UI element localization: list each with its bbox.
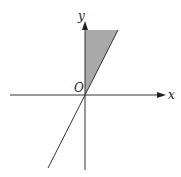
y-axis-label: y [77,9,85,23]
slanted-line [48,30,118,168]
x-axis-label: x [168,88,175,102]
coordinate-diagram: y O x [0,0,181,177]
origin-label: O [74,81,84,95]
x-axis-arrow-icon [157,92,166,98]
